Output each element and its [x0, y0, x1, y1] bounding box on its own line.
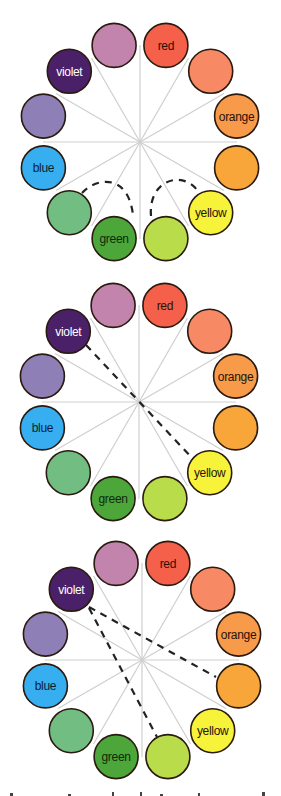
spoke-line	[139, 354, 223, 403]
swatch-violet: violet	[49, 567, 93, 611]
spoke-line	[140, 58, 189, 142]
swatch-green: green	[91, 477, 135, 521]
blue-green-circle	[49, 709, 93, 753]
blue-violet-circle	[20, 354, 64, 398]
swatch-orange: orange	[214, 354, 258, 398]
yellow-orange-circle	[214, 406, 258, 450]
red-label: red	[158, 39, 174, 53]
swatch-blue: blue	[20, 406, 64, 450]
orange-label: orange	[221, 628, 257, 642]
yellow-orange-circle	[215, 146, 259, 190]
orange-label: orange	[219, 110, 255, 124]
swatch-red-violet	[94, 541, 138, 585]
swatch-blue: blue	[21, 146, 65, 190]
spoke-line	[94, 660, 143, 744]
spoke-line	[142, 612, 226, 661]
swatch-yellow-orange	[217, 664, 261, 708]
orange-label: orange	[218, 370, 254, 384]
yellow-label: yellow	[194, 466, 226, 480]
spoke-line	[92, 58, 141, 142]
spoke-line	[58, 660, 142, 709]
blue-label: blue	[32, 421, 54, 435]
green-label: green	[99, 232, 128, 246]
swatch-red-violet	[92, 23, 136, 67]
spoke-line	[92, 142, 141, 226]
swatch-yellow: yellow	[191, 709, 235, 753]
violet-label: violet	[58, 583, 85, 597]
spoke-line	[140, 142, 224, 191]
green-label: green	[98, 492, 127, 506]
swatch-orange: orange	[215, 94, 259, 138]
swatch-blue-violet	[21, 94, 65, 138]
spoke-line	[94, 576, 143, 660]
yellow-label: yellow	[195, 206, 227, 220]
red-orange-circle	[188, 309, 232, 353]
swatch-green: green	[94, 735, 138, 779]
swatch-yellow-green	[144, 217, 188, 261]
swatch-green: green	[92, 217, 136, 261]
yellow-green-circle	[143, 477, 187, 521]
swatch-yellow: yellow	[189, 191, 233, 235]
blue-violet-circle	[21, 94, 65, 138]
color-wheel-figure: redorangeyellowgreenblueviolet redorange…	[0, 0, 281, 796]
swatch-yellow-green	[143, 477, 187, 521]
blue-green-circle	[46, 451, 90, 495]
red-label: red	[157, 299, 173, 313]
swatch-blue-violet	[23, 612, 67, 656]
yellow-green-circle	[146, 735, 190, 779]
spoke-line	[139, 402, 223, 451]
swatch-red-orange	[191, 567, 235, 611]
spoke-line	[139, 318, 188, 402]
swatch-red: red	[146, 541, 190, 585]
yellow-green-circle	[144, 217, 188, 261]
blue-label: blue	[33, 161, 55, 175]
spoke-line	[91, 402, 140, 486]
red-label: red	[160, 557, 176, 571]
swatch-yellow-orange	[214, 406, 258, 450]
swatch-blue-green	[49, 709, 93, 753]
yellow-orange-circle	[217, 664, 261, 708]
violet-label: violet	[55, 325, 82, 339]
spoke-line	[91, 318, 140, 402]
spoke-line	[140, 94, 224, 143]
swatch-blue-green	[46, 451, 90, 495]
complementary-wheel: redorangeyellowgreenblueviolet	[20, 283, 257, 520]
swatch-red-violet	[91, 283, 135, 327]
analogous-wheel: redorangeyellowgreenblueviolet	[21, 23, 258, 260]
swatch-red: red	[144, 23, 188, 67]
red-violet-circle	[94, 541, 138, 585]
green-label: green	[101, 750, 130, 764]
red-orange-circle	[189, 49, 233, 93]
red-violet-circle	[92, 23, 136, 67]
swatch-orange: orange	[217, 612, 261, 656]
swatch-red-orange	[189, 49, 233, 93]
split-complementary-wheel: redorangeyellowgreenblueviolet	[23, 541, 260, 778]
clipped-caption-fragments	[10, 792, 265, 796]
swatch-yellow-green	[146, 735, 190, 779]
swatch-red: red	[143, 283, 187, 327]
spoke-line	[142, 576, 191, 660]
swatch-yellow-orange	[215, 146, 259, 190]
blue-green-circle	[47, 191, 91, 235]
blue-violet-circle	[23, 612, 67, 656]
blue-label: blue	[35, 679, 57, 693]
spoke-line	[140, 142, 189, 226]
red-orange-circle	[191, 567, 235, 611]
yellow-label: yellow	[197, 724, 229, 738]
swatch-red-orange	[188, 309, 232, 353]
swatch-blue-green	[47, 191, 91, 235]
spoke-line	[142, 660, 191, 744]
swatch-blue-violet	[20, 354, 64, 398]
violet-label: violet	[56, 65, 83, 79]
swatch-violet: violet	[47, 49, 91, 93]
spoke-line	[142, 660, 226, 709]
spoke-line	[55, 354, 139, 403]
red-violet-circle	[91, 283, 135, 327]
swatch-yellow: yellow	[188, 451, 232, 495]
spoke-line	[55, 402, 139, 451]
swatch-violet: violet	[46, 309, 90, 353]
spoke-line	[56, 94, 140, 143]
spoke-line	[58, 612, 142, 661]
swatch-blue: blue	[23, 664, 67, 708]
